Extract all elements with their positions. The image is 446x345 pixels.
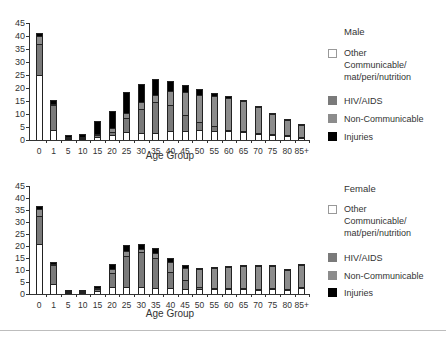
bar-segment — [123, 287, 130, 294]
x-tick-label: 10 — [75, 301, 91, 310]
stacked-bar — [269, 265, 276, 294]
stacked-bar — [109, 264, 116, 294]
bar-segment — [225, 289, 232, 294]
legend-label-line: mat/peri/nutrition — [344, 227, 444, 239]
x-tick-label: 75 — [265, 301, 281, 310]
x-tick-mark — [207, 294, 208, 297]
y-tick-label: 40 — [3, 194, 25, 203]
bar-segment — [182, 268, 189, 281]
bar-segment — [50, 265, 57, 284]
bar-segment — [138, 252, 145, 287]
bar-segment — [109, 273, 116, 287]
bar-segment — [123, 256, 130, 287]
x-tick-mark — [105, 294, 106, 297]
y-tick-label: 35 — [3, 206, 25, 215]
bar-segment — [167, 262, 174, 273]
bar-segment — [152, 258, 159, 288]
bar-segment — [50, 284, 57, 294]
x-tick-mark — [134, 294, 135, 297]
x-tick-mark — [251, 294, 252, 297]
y-tick-mark — [26, 198, 29, 199]
x-tick-mark — [61, 294, 62, 297]
legend-label: Non-Communicable — [344, 270, 444, 282]
x-tick-mark — [90, 294, 91, 297]
x-tick-label: 5 — [60, 301, 76, 310]
x-tick-mark — [280, 294, 281, 297]
swatch-dark-grey-icon — [328, 253, 337, 262]
swatch-grey-icon — [328, 271, 337, 280]
stacked-bar — [182, 265, 189, 294]
bar-segment — [255, 290, 262, 294]
stacked-bar — [65, 290, 72, 294]
y-tick-label: 10 — [3, 266, 25, 275]
legend-label: Injuries — [344, 287, 444, 299]
stacked-bar — [284, 269, 291, 294]
swatch-white-icon — [328, 205, 337, 214]
x-tick-label: 65 — [235, 301, 251, 310]
stacked-bar — [94, 286, 101, 294]
x-tick-mark — [295, 294, 296, 297]
stacked-bar — [225, 266, 232, 294]
stacked-bar — [138, 244, 145, 294]
bar-segment — [269, 266, 276, 288]
stacked-bar — [79, 290, 86, 294]
y-tick-label: 30 — [3, 218, 25, 227]
y-tick-label: 0 — [3, 290, 25, 299]
bar-segment — [298, 265, 305, 287]
x-tick-mark — [309, 294, 310, 297]
y-tick-mark — [26, 282, 29, 283]
bar-segment — [255, 266, 262, 289]
bar-segment — [211, 289, 218, 294]
bar-segment — [36, 209, 43, 216]
stacked-bar — [36, 206, 43, 294]
y-tick-mark — [26, 270, 29, 271]
x-tick-label: 0 — [31, 301, 47, 310]
x-tick-label: 85+ — [294, 301, 310, 310]
stacked-bar — [123, 245, 130, 294]
bar-segment — [36, 244, 43, 294]
stacked-bar — [211, 267, 218, 294]
bar-segment — [167, 272, 174, 288]
legend-label-line: Communicable/ — [344, 215, 444, 227]
y-tick-label: 20 — [3, 242, 25, 251]
legend-label: HIV/AIDS — [344, 252, 444, 264]
y-tick-mark — [26, 186, 29, 187]
x-tick-label: 70 — [250, 301, 266, 310]
bar-segment — [269, 289, 276, 294]
bar-segment — [65, 293, 72, 294]
y-tick-label: 25 — [3, 230, 25, 239]
female-chart: 0510152025303540450151015202530354045505… — [0, 0, 446, 330]
bar-segment — [138, 287, 145, 294]
x-tick-mark — [149, 294, 150, 297]
x-tick-label: 80 — [279, 301, 295, 310]
stacked-bar — [240, 265, 247, 294]
stacked-bar — [167, 258, 174, 294]
x-tick-mark — [46, 294, 47, 297]
x-tick-mark — [119, 294, 120, 297]
bar-segment — [182, 289, 189, 294]
bar-segment — [298, 288, 305, 294]
x-tick-mark — [163, 294, 164, 297]
bar-segment — [284, 270, 291, 289]
x-tick-mark — [76, 294, 77, 297]
x-tick-mark — [178, 294, 179, 297]
bar-segment — [240, 266, 247, 288]
y-tick-mark — [26, 234, 29, 235]
bar-segment — [196, 289, 203, 294]
y-axis — [29, 186, 30, 294]
female-x-axis-label: Age Group — [120, 308, 220, 319]
swatch-black-icon — [328, 288, 337, 297]
y-tick-label: 45 — [3, 182, 25, 191]
bar-segment — [225, 267, 232, 288]
x-tick-mark — [265, 294, 266, 297]
bar-segment — [79, 293, 86, 294]
x-tick-label: 60 — [221, 301, 237, 310]
stacked-bar — [196, 268, 203, 294]
y-tick-mark — [26, 246, 29, 247]
x-tick-mark — [236, 294, 237, 297]
stacked-bar — [152, 248, 159, 294]
legend-label-line: Other — [344, 203, 444, 215]
female-legend-title: Female — [344, 183, 376, 194]
stacked-bar — [50, 262, 57, 294]
x-axis — [29, 294, 310, 295]
